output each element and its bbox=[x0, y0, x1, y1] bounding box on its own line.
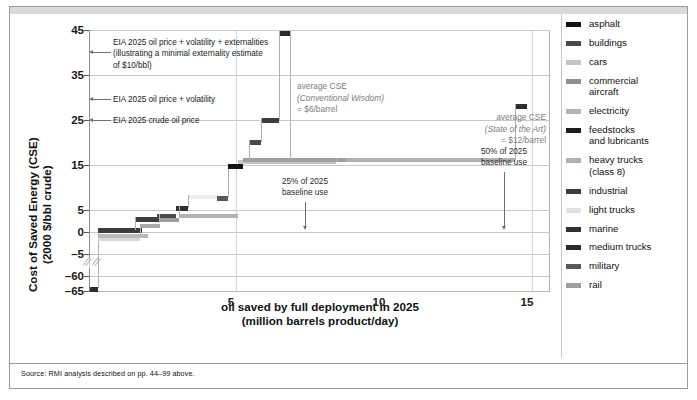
annotation-avg-cse-conventional: average CSE (Conventional Wisdom) = $6/b… bbox=[297, 81, 384, 116]
ytick-label-15: 15 bbox=[40, 159, 84, 171]
legend-item-label: marine bbox=[589, 223, 618, 235]
riser-f bbox=[228, 169, 229, 197]
legend-swatch-icon bbox=[566, 189, 581, 194]
legend-item[interactable]: marine bbox=[566, 223, 686, 235]
ytick-label-45: 45 bbox=[40, 24, 84, 36]
source-divider bbox=[10, 363, 687, 364]
step-buildings-upper bbox=[249, 140, 261, 145]
annotation-baseline-50: 50% of 2025 baseline use bbox=[472, 146, 536, 169]
gridline-5 bbox=[89, 210, 550, 211]
ytick-label-25: 25 bbox=[40, 114, 84, 126]
source-note: Source: RMI analysis described on pp. 44… bbox=[21, 369, 195, 378]
step-rail bbox=[160, 218, 179, 222]
legend-item[interactable]: cars bbox=[566, 56, 686, 68]
gridline-minus60 bbox=[89, 276, 550, 277]
legend-swatch-icon bbox=[566, 60, 581, 65]
riser-d bbox=[179, 206, 180, 216]
riser-i bbox=[279, 31, 280, 121]
legend-item[interactable]: military bbox=[566, 260, 686, 272]
riser-j bbox=[290, 31, 291, 159]
annotation-avg-cse-state-of-art: average CSE (State of the Art) = $12/bar… bbox=[441, 112, 546, 147]
legend-swatch-icon bbox=[566, 109, 581, 114]
legend-item[interactable]: industrial bbox=[566, 185, 686, 197]
legend-swatch-icon bbox=[566, 283, 581, 288]
xtick-label-10: 10 bbox=[364, 296, 394, 308]
legend-item[interactable]: feedstocks and lubricants bbox=[566, 124, 686, 147]
step-electricity-upper bbox=[515, 104, 527, 109]
gridline-minus5 bbox=[89, 254, 550, 255]
figure-container: Cost of Saved Energy (CSE) (2000 $/bbl c… bbox=[0, 0, 697, 400]
step-cars-upper bbox=[243, 158, 346, 162]
legend-swatch-icon bbox=[566, 208, 581, 213]
legend-swatch-icon bbox=[566, 227, 581, 232]
arrowhead-baseline-25 bbox=[303, 226, 307, 230]
legend-item[interactable]: buildings bbox=[566, 37, 686, 49]
legend-item[interactable]: commercial aircraft bbox=[566, 75, 686, 98]
step-electricity bbox=[179, 214, 238, 218]
ytick-label-35: 35 bbox=[40, 69, 84, 81]
leader-baseline-50 bbox=[504, 172, 505, 228]
legend-item-label: military bbox=[589, 260, 619, 272]
xtick-label-5: 5 bbox=[216, 296, 246, 308]
annotation-eia-volatility: EIA 2025 oil price + volatility bbox=[113, 94, 215, 105]
cw-italic: (Conventional Wisdom) bbox=[297, 93, 384, 103]
step-military bbox=[217, 196, 228, 201]
ytick-label-minus60: –60 bbox=[32, 270, 84, 282]
legend-item-label: feedstocks and lubricants bbox=[589, 124, 649, 147]
legend-item[interactable]: medium trucks bbox=[566, 241, 686, 253]
annotation-eia-externalities: EIA 2025 oil price + volatility + extern… bbox=[113, 37, 268, 71]
soa-italic: (State of the Art) bbox=[485, 124, 546, 134]
legend: asphaltbuildingscarscommercial aircrafte… bbox=[566, 18, 686, 298]
legend-swatch-icon bbox=[566, 41, 581, 46]
ytick-label-minus65: –65 bbox=[32, 285, 84, 297]
ytick-label-0: 0 bbox=[40, 226, 84, 238]
ytick-label-minus5: –5 bbox=[36, 248, 84, 260]
legend-item-label: cars bbox=[589, 56, 607, 68]
legend-item-label: rail bbox=[589, 279, 602, 291]
legend-swatch-icon bbox=[566, 79, 581, 84]
step-medium-trucks-upper bbox=[279, 31, 290, 36]
step-heavy-trucks bbox=[140, 224, 160, 228]
riser-e bbox=[188, 195, 189, 208]
legend-item[interactable]: electricity bbox=[566, 105, 686, 117]
riser-g bbox=[249, 140, 250, 160]
legend-swatch-icon bbox=[566, 245, 581, 250]
x-axis-title-line2: (million barrels product/day) bbox=[242, 314, 399, 327]
step-asphalt bbox=[228, 164, 243, 169]
riser-b bbox=[135, 217, 136, 230]
plot-area: EIA 2025 oil price + volatility + extern… bbox=[89, 30, 550, 292]
legend-item[interactable]: light trucks bbox=[566, 204, 686, 216]
riser-h bbox=[261, 118, 262, 142]
legend-divider bbox=[561, 14, 562, 358]
legend-item-label: medium trucks bbox=[589, 241, 651, 253]
legend-item-label: buildings bbox=[589, 37, 627, 49]
legend-swatch-icon bbox=[566, 128, 581, 133]
legend-swatch-icon bbox=[566, 22, 581, 27]
step-marine bbox=[176, 206, 188, 211]
legend-item[interactable]: heavy trucks (class 8) bbox=[566, 154, 686, 177]
step-medium-trucks bbox=[135, 217, 159, 222]
y-axis-spine-upper bbox=[89, 30, 90, 258]
legend-item-label: heavy trucks (class 8) bbox=[589, 154, 643, 177]
step-commercial-aircraft bbox=[188, 195, 218, 199]
riser-plateau-join bbox=[336, 158, 337, 162]
gridline-0 bbox=[89, 232, 550, 233]
gridline-45 bbox=[89, 30, 550, 31]
legend-swatch-icon bbox=[566, 158, 581, 163]
legend-item[interactable]: asphalt bbox=[566, 18, 686, 30]
annotation-baseline-25: 25% of 2025 baseline use bbox=[273, 176, 337, 199]
legend-item[interactable]: rail bbox=[566, 279, 686, 291]
ytick-label-5: 5 bbox=[40, 204, 84, 216]
annotation-eia-crude-price: EIA 2025 crude oil price bbox=[113, 115, 199, 126]
arrowhead-baseline-50 bbox=[502, 226, 506, 230]
leader-baseline-25 bbox=[305, 202, 306, 228]
figure-top-bar bbox=[10, 7, 687, 14]
step-industrial-upper bbox=[261, 118, 279, 123]
step-feedstocks-and-lubricants bbox=[89, 287, 98, 292]
legend-item-label: commercial aircraft bbox=[589, 75, 638, 98]
leader-eia-volatility bbox=[93, 99, 111, 100]
legend-swatch-icon bbox=[566, 264, 581, 269]
legend-item-label: electricity bbox=[589, 105, 629, 117]
gridline-35 bbox=[89, 75, 550, 76]
riser-c bbox=[159, 214, 160, 223]
